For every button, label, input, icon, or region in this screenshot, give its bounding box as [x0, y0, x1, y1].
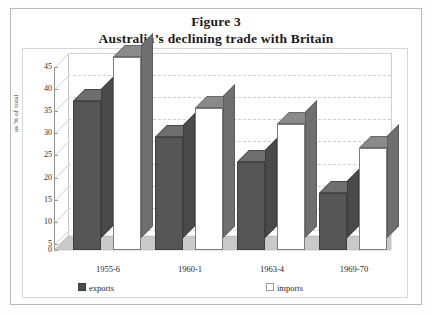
legend-item-imports: imports [266, 282, 303, 293]
bar-imports-1963-4 [277, 124, 305, 250]
bar-exports-1969-70 [319, 193, 347, 250]
legend-label-imports: imports [277, 283, 303, 293]
bar-exports-1963-4 [237, 162, 265, 250]
xtick-1955-6: 1955-6 [70, 264, 146, 274]
ytick-25: 25 [26, 150, 52, 159]
legend-swatch-exports-icon [78, 283, 86, 291]
ytick-0: 0 [26, 245, 52, 254]
xtick-1960-1: 1960-1 [152, 264, 228, 274]
bar-imports-1969-70 [359, 148, 387, 250]
legend-label-exports: exports [89, 283, 114, 293]
bar-imports-1955-6 [113, 57, 141, 250]
figure-screenshot: Figure 3 Australia’s declining trade wit… [0, 0, 432, 315]
bar-imports-1960-1 [195, 108, 223, 250]
ytick-45: 45 [26, 62, 52, 71]
ytick-35: 35 [26, 106, 52, 115]
ytick-10: 10 [26, 217, 52, 226]
xtick-1969-70: 1969-70 [316, 264, 392, 274]
legend-swatch-imports-icon [266, 283, 274, 291]
bar-exports-1955-6 [73, 101, 101, 250]
xtick-1963-4: 1963-4 [234, 264, 310, 274]
bar-exports-1960-1 [155, 137, 183, 250]
ytick-40: 40 [26, 84, 52, 93]
legend-item-exports: exports [78, 282, 114, 293]
plot-area: 45 40 35 30 25 20 15 10 5 0 [0, 0, 432, 315]
ytick-20: 20 [26, 173, 52, 182]
ytick-15: 15 [26, 195, 52, 204]
ytick-30: 30 [26, 128, 52, 137]
